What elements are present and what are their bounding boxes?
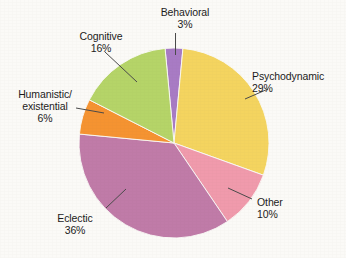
slice-label-humanistic-name: Humanistic/ — [18, 88, 72, 100]
slice-label-eclectic: Eclectic 36% — [36, 212, 114, 236]
slice-label-humanistic-name-line2: existential — [2, 100, 88, 112]
slice-label-eclectic-percent: 36% — [36, 224, 114, 236]
slice-label-psychodynamic-percent: 29% — [252, 82, 344, 94]
pie-slice-group — [79, 48, 269, 238]
slice-label-behavioral-percent: 3% — [137, 18, 233, 30]
slice-label-humanistic-percent: 6% — [2, 112, 88, 124]
pie-chart: Behavioral 3% Cognitive 16% Humanistic/ … — [0, 0, 346, 258]
slice-label-cognitive-name: Cognitive — [80, 30, 123, 42]
slice-label-cognitive-percent: 16% — [60, 42, 142, 54]
slice-label-other: Other 10% — [257, 196, 327, 220]
slice-label-eclectic-name: Eclectic — [57, 212, 92, 224]
slice-label-behavioral: Behavioral 3% — [137, 6, 233, 30]
slice-label-psychodynamic: Psychodynamic 29% — [252, 70, 344, 94]
slice-label-cognitive: Cognitive 16% — [60, 30, 142, 54]
slice-label-psychodynamic-name: Psychodynamic — [252, 70, 324, 82]
slice-label-behavioral-name: Behavioral — [161, 6, 210, 18]
slice-label-other-name: Other — [257, 196, 283, 208]
slice-label-other-percent: 10% — [257, 208, 327, 220]
slice-label-humanistic-existential: Humanistic/ existential 6% — [2, 88, 88, 125]
